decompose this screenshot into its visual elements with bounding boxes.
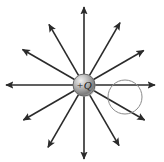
charge-label: +Q (76, 79, 91, 91)
electric-field-diagram: +Q (0, 0, 164, 162)
field-diagram-canvas: +Q (0, 0, 164, 162)
